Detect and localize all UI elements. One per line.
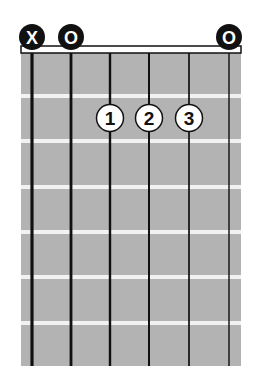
finger-number: 2 xyxy=(144,108,155,129)
muted-label: X xyxy=(26,28,38,48)
finger-1: 1 xyxy=(97,105,124,132)
chord-diagram: X O O 1 2 3 xyxy=(0,0,255,389)
finger-3: 3 xyxy=(176,105,203,132)
open-marker-string-5: O xyxy=(58,24,84,50)
finger-2: 2 xyxy=(136,105,163,132)
finger-number: 1 xyxy=(105,108,116,129)
fret-line-2 xyxy=(21,139,241,143)
fret-line-6 xyxy=(21,321,241,325)
finger-number: 3 xyxy=(184,108,195,129)
open-label: O xyxy=(222,28,236,48)
nut xyxy=(21,46,241,53)
open-marker-string-1: O xyxy=(216,24,242,50)
fret-line-4 xyxy=(21,230,241,234)
open-label: O xyxy=(64,28,78,48)
fret-line-1 xyxy=(21,94,241,98)
fret-line-3 xyxy=(21,185,241,189)
fretboard xyxy=(21,53,241,366)
fret-line-5 xyxy=(21,275,241,279)
muted-marker-string-6: X xyxy=(19,24,45,50)
